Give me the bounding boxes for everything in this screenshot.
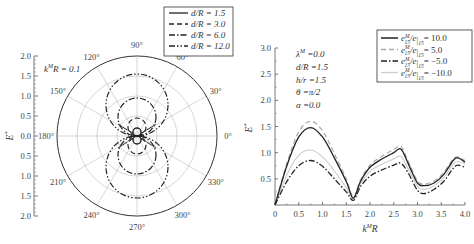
polar-spoke <box>137 67 177 136</box>
angle-label: 150° <box>50 86 66 96</box>
legend-label: d/R = 3.0 <box>191 19 226 29</box>
x-tick-label: 3.5 <box>436 209 447 219</box>
radial-tick-label: 1.5 <box>20 191 31 201</box>
angle-label: 90° <box>131 40 143 50</box>
line-legend: eM15/e|15= 10.0eM15/e|15= 5.0eM15/e|15= … <box>377 30 472 82</box>
polar-legend: d/R = 1.5d/R = 3.0d/R = 6.0d/R = 12.0 <box>164 7 233 56</box>
legend-label: d/R = 6.0 <box>191 30 226 40</box>
param-annotation: d/R =1.5 <box>296 62 329 72</box>
radial-tick-label: 0.5 <box>20 151 31 161</box>
param-annotation: h/r =1.5 <box>296 75 327 85</box>
y-tick-label: 2.5 <box>260 69 271 79</box>
x-tick-label: 1.0 <box>317 209 328 219</box>
line-series <box>275 121 465 205</box>
figure: 0°30°60°90°120°150°180°210°240°270°300°3… <box>0 0 474 244</box>
legend-label: d/R = 1.5 <box>191 8 226 18</box>
y-tick-label: 3.0 <box>260 43 271 53</box>
radial-tick-label: 2.0 <box>20 211 31 221</box>
x-tick-label: 0 <box>273 209 277 219</box>
angle-label: 210° <box>50 177 66 187</box>
angle-label: 300° <box>174 210 190 220</box>
angle-label: 270° <box>129 222 145 232</box>
x-tick-label: 0.5 <box>293 209 304 219</box>
legend-label: d/R = 12.0 <box>191 41 230 51</box>
x-tick-label: 3.0 <box>412 209 423 219</box>
radial-tick-label: 1.5 <box>20 71 31 81</box>
param-annotation: α =0.0 <box>296 100 321 110</box>
y-axis-label: E* <box>243 124 254 134</box>
angle-label: 180° <box>38 131 54 141</box>
radial-tick-label: 0.5 <box>20 111 31 121</box>
x-tick-label: 2.5 <box>388 209 399 219</box>
line-series <box>275 128 465 205</box>
angle-label: 120° <box>83 52 99 62</box>
radial-tick-label: 2.0 <box>20 51 31 61</box>
angle-label: 240° <box>83 210 99 220</box>
x-tick-label: 4.0 <box>460 209 471 219</box>
angle-label: 330° <box>208 177 224 187</box>
radial-tick-label: 1.0 <box>20 171 31 181</box>
x-tick-label: 2.0 <box>365 209 376 219</box>
radial-tick-label: 1.0 <box>20 91 31 101</box>
polar-annotation: kMR = 0.1 <box>44 63 80 74</box>
radial-tick-label: 0.0 <box>20 131 31 141</box>
polar-spoke <box>97 67 137 136</box>
x-tick-label: 1.5 <box>341 209 352 219</box>
angle-label: 30° <box>210 86 222 96</box>
param-lambda: λM =0.0 <box>295 48 325 59</box>
polar-ylabel: E* <box>4 132 15 142</box>
line-series <box>275 150 465 205</box>
polar-chart: 0°30°60°90°120°150°180°210°240°270°300°3… <box>4 40 232 232</box>
x-axis-label: kMR <box>362 223 377 234</box>
y-tick-label: 1.0 <box>260 148 271 158</box>
param-annotation: θ =π/2 <box>296 87 321 97</box>
angle-label: 0° <box>224 131 232 141</box>
y-tick-label: 2.0 <box>260 95 271 105</box>
y-tick-label: 1.5 <box>260 122 271 132</box>
y-tick-label: 0.5 <box>260 174 271 184</box>
polar-spoke <box>137 136 177 205</box>
polar-spoke <box>97 136 137 205</box>
